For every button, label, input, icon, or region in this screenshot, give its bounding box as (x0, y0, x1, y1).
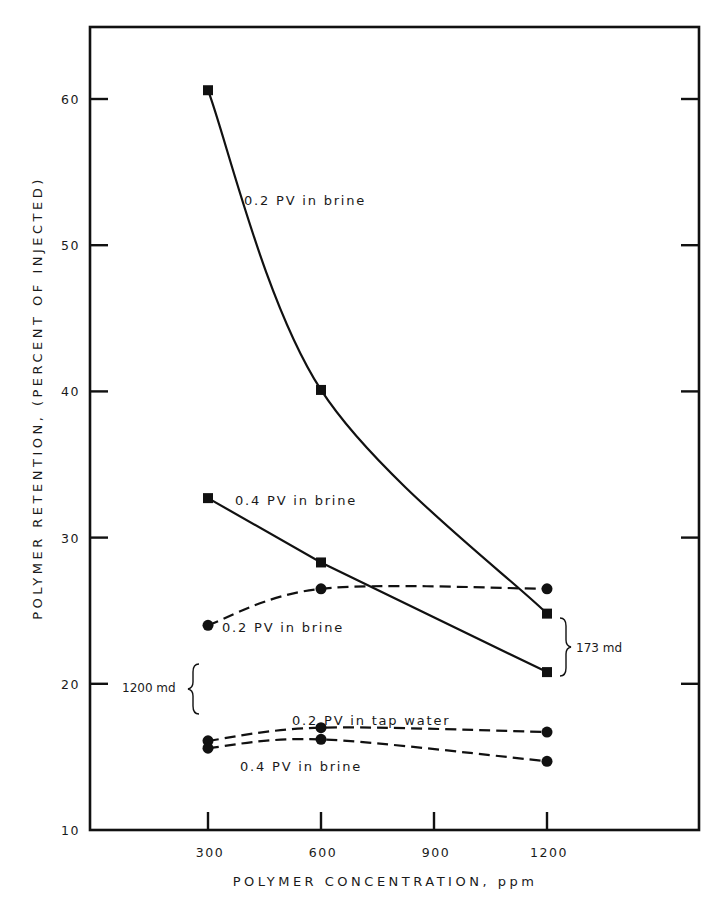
y-tick-label: 20 (61, 677, 80, 692)
series-line (208, 739, 547, 761)
series-label: 0.4 PV in brine (240, 759, 362, 774)
square-marker-icon (542, 667, 552, 677)
circle-marker-icon (203, 620, 214, 631)
y-axis-title: POLYMER RETENTION, (PERCENT OF INJECTED) (30, 176, 45, 620)
y-tick-label: 50 (61, 238, 80, 253)
square-marker-icon (316, 385, 326, 395)
series-label: 0.2 PV in brine (222, 620, 344, 635)
y-tick-label: 30 (61, 531, 80, 546)
brace-1200md-icon (188, 664, 199, 714)
series-line (208, 727, 547, 740)
circle-marker-icon (542, 583, 553, 594)
annotation-173md: 173 md (576, 641, 622, 655)
series-markers (203, 85, 553, 767)
circle-marker-icon (542, 756, 553, 767)
y-tick-label: 10 (61, 823, 80, 838)
series-labels: 0.2 PV in brine0.4 PV in brine0.2 PV in … (222, 193, 450, 774)
x-axis-ticks: 3006009001200 (196, 812, 568, 860)
circle-marker-icon (316, 583, 327, 594)
y-tick-label: 40 (61, 384, 80, 399)
series-lines (208, 90, 547, 761)
x-tick-label: 300 (196, 845, 224, 860)
x-tick-label: 900 (422, 845, 450, 860)
annotation-1200md: 1200 md (122, 681, 176, 695)
square-marker-icon (203, 85, 213, 95)
series-label: 0.4 PV in brine (235, 493, 357, 508)
brace-173md-icon (560, 618, 571, 676)
retention-chart: 102030405060 3006009001200 0.2 PV in bri… (0, 0, 721, 910)
square-marker-icon (542, 609, 552, 619)
circle-marker-icon (203, 743, 214, 754)
series-line (208, 90, 547, 613)
square-marker-icon (203, 493, 213, 503)
plot-frame (90, 27, 699, 830)
circle-marker-icon (542, 727, 553, 738)
circle-marker-icon (316, 734, 327, 745)
x-tick-label: 1200 (530, 845, 568, 860)
series-label: 0.2 PV in brine (244, 193, 366, 208)
y-tick-label: 60 (61, 92, 80, 107)
x-axis-title: POLYMER CONCENTRATION, ppm (233, 874, 538, 889)
series-label: 0.2 PV in tap water (292, 713, 450, 728)
square-marker-icon (316, 557, 326, 567)
x-tick-label: 600 (309, 845, 337, 860)
